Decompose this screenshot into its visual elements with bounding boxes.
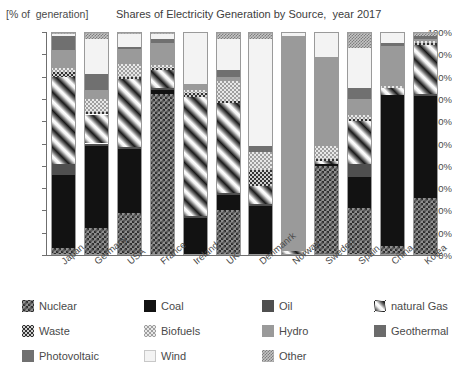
bar-segment-biofuels: [216, 81, 241, 101]
bar-segment-nuclear: [150, 94, 175, 255]
bar-segment-oil: [347, 164, 372, 177]
bar-sweden[interactable]: [314, 32, 339, 255]
legend-label: Other: [279, 350, 307, 362]
legend-item-wind[interactable]: Wind: [144, 350, 186, 362]
bar-segment-waste: [413, 43, 438, 45]
bar-china[interactable]: [380, 32, 405, 255]
bar-segment-other: [150, 32, 175, 34]
bar-segment-waste: [347, 119, 372, 121]
legend-item-geo[interactable]: Geothermal: [374, 325, 448, 337]
bar-segment-gas: [413, 45, 438, 94]
y-tick-mark: [42, 255, 47, 256]
bar-segment-biofuels: [314, 146, 339, 159]
legend-swatch-geo-icon: [374, 325, 386, 337]
bar-segment-waste: [117, 77, 142, 79]
bar-segment-coal: [51, 175, 76, 249]
bar-segment-hydro: [117, 49, 142, 64]
bar-segment-hydro: [347, 99, 372, 115]
bar-segment-waste: [216, 101, 241, 103]
bar-segment-oil: [248, 204, 273, 206]
legend-label: Coal: [161, 300, 184, 312]
bar-france[interactable]: [150, 32, 175, 255]
bar-segment-coal: [413, 96, 438, 198]
bar-segment-hydro: [281, 36, 306, 250]
bar-segment-gas: [314, 161, 339, 163]
legend-label: Oil: [279, 300, 292, 312]
bar-segment-wind: [347, 48, 372, 88]
bar-segment-oil: [51, 164, 76, 175]
bar-segment-wind: [150, 34, 175, 38]
bar-segment-pv: [84, 74, 109, 90]
bar-segment-coal: [84, 146, 109, 229]
bar-segment-pv: [248, 146, 273, 153]
bar-segment-oil: [150, 88, 175, 90]
bar-segment-pv: [150, 39, 175, 43]
bar-segment-biofuels: [248, 152, 273, 170]
bar-segment-waste: [84, 112, 109, 114]
bar-group: [47, 32, 442, 255]
bar-denmanrk[interactable]: [248, 32, 273, 255]
bar-segment-other: [413, 32, 438, 36]
bar-segment-wind: [117, 34, 142, 47]
legend-item-other[interactable]: Other: [262, 350, 307, 362]
bar-segment-waste: [150, 68, 175, 70]
bar-segment-pv: [380, 43, 405, 45]
bar-segment-hydro: [51, 50, 76, 68]
bar-segment-oil: [216, 193, 241, 195]
bar-segment-pv: [347, 88, 372, 99]
chart-header: [% of generation] Shares of Electricity …: [6, 8, 446, 24]
bar-segment-pv: [51, 36, 76, 49]
bar-uk[interactable]: [216, 32, 241, 255]
legend-item-waste[interactable]: Waste: [22, 325, 70, 337]
bar-segment-other: [117, 32, 142, 34]
bar-segment-coal: [347, 177, 372, 208]
legend-item-gas[interactable]: natural Gas: [374, 300, 448, 312]
bar-spain[interactable]: [347, 32, 372, 255]
legend-swatch-wind-icon: [144, 350, 156, 362]
bar-segment-oil: [183, 216, 208, 218]
y-axis-unit-label: [% of generation]: [6, 8, 88, 20]
bar-segment-other: [347, 32, 372, 48]
bar-segment-pv: [117, 47, 142, 49]
bar-segment-pv: [216, 70, 241, 77]
bar-korea[interactable]: [413, 32, 438, 255]
legend-label: Hydro: [279, 325, 308, 337]
legend-item-oil[interactable]: Oil: [262, 300, 292, 312]
bar-segment-gas: [216, 103, 241, 192]
bar-ireland[interactable]: [183, 32, 208, 255]
bar-segment-gas: [183, 97, 208, 216]
bar-segment-wind: [51, 34, 76, 36]
bar-germany[interactable]: [84, 32, 109, 255]
bar-segment-hydro: [314, 57, 339, 146]
bar-segment-hydro: [84, 90, 109, 99]
bar-segment-wind: [84, 39, 109, 75]
legend-item-pv[interactable]: Photovoltaic: [22, 350, 99, 362]
bar-segment-waste: [183, 93, 208, 97]
bar-japan[interactable]: [51, 32, 76, 255]
legend-swatch-nuclear-icon: [22, 300, 34, 312]
legend-swatch-pv-icon: [22, 350, 34, 362]
bar-segment-waste: [51, 72, 76, 76]
bar-segment-coal: [314, 164, 339, 166]
bar-segment-coal: [216, 195, 241, 211]
bar-usa[interactable]: [117, 32, 142, 255]
legend-label: Geothermal: [391, 325, 448, 337]
legend-item-nuclear[interactable]: Nuclear: [22, 300, 77, 312]
legend-swatch-hydro-icon: [262, 325, 274, 337]
bar-segment-biofuels: [150, 65, 175, 67]
bar-segment-hydro: [380, 46, 405, 87]
bar-segment-waste: [314, 159, 339, 161]
chart-title: Shares of Electricity Generation by Sour…: [116, 8, 381, 20]
chart-root: [% of generation] Shares of Electricity …: [0, 0, 452, 376]
legend-swatch-other-icon: [262, 350, 274, 362]
legend-label: natural Gas: [391, 300, 448, 312]
bar-segment-oil: [413, 94, 438, 96]
legend-label: Biofuels: [161, 325, 200, 337]
legend-swatch-oil-icon: [262, 300, 274, 312]
bar-segment-coal: [150, 90, 175, 94]
bar-norway[interactable]: [281, 32, 306, 255]
legend-item-hydro[interactable]: Hydro: [262, 325, 308, 337]
legend-swatch-waste-icon: [22, 325, 34, 337]
legend-item-biofuels[interactable]: Biofuels: [144, 325, 200, 337]
legend-item-coal[interactable]: Coal: [144, 300, 184, 312]
